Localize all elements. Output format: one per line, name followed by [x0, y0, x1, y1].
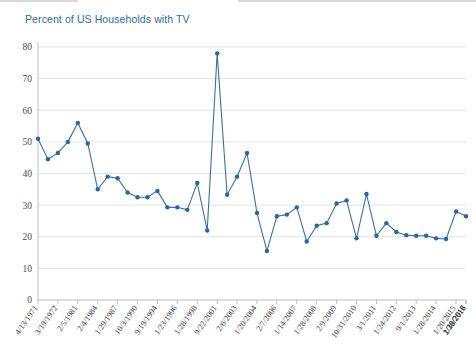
data-point [404, 233, 408, 237]
data-point [175, 205, 179, 209]
data-point [305, 239, 309, 243]
data-point [265, 249, 269, 253]
data-point [215, 51, 219, 55]
data-point [205, 228, 209, 232]
data-series-line [38, 53, 466, 251]
y-tick-label: 50 [23, 137, 33, 147]
y-tick-label: 40 [23, 169, 33, 179]
y-tick-label: 60 [23, 106, 33, 116]
data-point [145, 195, 149, 199]
data-point [96, 187, 100, 191]
data-point [225, 192, 229, 196]
data-point [414, 234, 418, 238]
data-point [354, 236, 358, 240]
data-point [384, 221, 388, 225]
data-point [454, 209, 458, 213]
data-point [295, 205, 299, 209]
data-point [374, 234, 378, 238]
data-point [364, 192, 368, 196]
data-point [235, 174, 239, 178]
x-axis [38, 300, 466, 304]
data-points [36, 51, 468, 253]
data-point [324, 221, 328, 225]
data-point [185, 208, 189, 212]
data-point [66, 140, 70, 144]
data-point [115, 176, 119, 180]
data-point [135, 195, 139, 199]
y-tick-label: 10 [23, 264, 33, 274]
chart-container: Percent of US Households with TV 0102030… [0, 0, 476, 361]
data-point [86, 141, 90, 145]
data-point [195, 181, 199, 185]
data-point [245, 151, 249, 155]
data-point [434, 236, 438, 240]
y-axis-labels: 01020304050607080 [23, 42, 33, 305]
y-tick-label: 70 [23, 74, 33, 84]
data-point [334, 201, 338, 205]
data-point [155, 189, 159, 193]
data-point [275, 214, 279, 218]
data-point [285, 212, 289, 216]
data-point [424, 234, 428, 238]
data-point [125, 190, 129, 194]
data-point [444, 237, 448, 241]
data-point [56, 151, 60, 155]
data-point [165, 205, 169, 209]
data-point [46, 157, 50, 161]
y-tick-label: 20 [23, 232, 33, 242]
data-point [255, 211, 259, 215]
data-point [76, 121, 80, 125]
y-tick-label: 30 [23, 201, 33, 211]
line-chart-plot: 01020304050607080 4/13/19713/19/19722/5/… [0, 0, 476, 361]
series-path [38, 53, 466, 251]
data-point [105, 174, 109, 178]
x-axis-labels: 4/13/19713/19/19722/5/19812/4/19841/29/1… [13, 304, 467, 340]
data-point [394, 230, 398, 234]
data-point [315, 223, 319, 227]
gridlines [38, 42, 466, 300]
y-tick-label: 80 [23, 42, 33, 52]
data-point [36, 137, 40, 141]
data-point [344, 198, 348, 202]
data-point [464, 214, 468, 218]
